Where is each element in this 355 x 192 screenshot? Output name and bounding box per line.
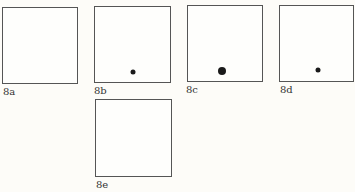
dot-8c — [218, 67, 226, 75]
panel-label-8a: 8a — [3, 87, 15, 97]
dot-8b — [131, 70, 136, 75]
panel-label-8e: 8e — [96, 180, 108, 190]
panel-8e — [95, 99, 172, 177]
dot-8d — [316, 68, 321, 73]
panel-label-8d: 8d — [280, 85, 293, 95]
panel-label-8c: 8c — [186, 85, 198, 95]
panel-label-8b: 8b — [94, 86, 107, 96]
panel-8a — [2, 7, 78, 84]
